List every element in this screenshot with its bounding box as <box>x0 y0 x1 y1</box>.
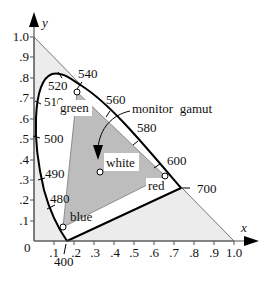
svg-text:.9: .9 <box>19 49 29 64</box>
x-tick-labels: .1 .2 .3 .4 .5 .6 .7 .8 .9 1.0 <box>49 245 242 260</box>
red-label: red <box>148 178 165 193</box>
blue-primary-point <box>60 224 66 230</box>
svg-text:.7: .7 <box>19 90 29 105</box>
svg-text:.6: .6 <box>19 111 29 126</box>
svg-text:.6: .6 <box>149 245 159 260</box>
svg-text:.3: .3 <box>90 245 100 260</box>
green-primary-point <box>74 89 80 95</box>
svg-text:.4: .4 <box>110 245 120 260</box>
svg-text:.9: .9 <box>209 245 219 260</box>
svg-text:400: 400 <box>54 254 74 269</box>
white-label: white <box>106 155 135 170</box>
svg-text:.2: .2 <box>19 192 29 207</box>
monitor-gamut-annotation: monitor gamut <box>132 101 213 116</box>
origin-label: 0 <box>24 240 31 255</box>
cie-chromaticity-diagram: y x .1 .2 .3 .4 .5 .6 .7 .8 .9 1.0 0 .1 … <box>0 0 267 284</box>
svg-text:1.0: 1.0 <box>226 245 242 260</box>
svg-text:.8: .8 <box>189 245 199 260</box>
svg-text:.3: .3 <box>19 172 29 187</box>
svg-text:480: 480 <box>50 191 70 206</box>
svg-text:490: 490 <box>45 166 65 181</box>
x-ticks <box>54 241 234 245</box>
svg-text:500: 500 <box>44 131 64 146</box>
y-tick-labels: .1 .2 .3 .4 .5 .6 .7 .8 .9 1.0 <box>13 29 30 228</box>
svg-text:600: 600 <box>167 153 187 168</box>
svg-text:.4: .4 <box>19 152 29 167</box>
svg-text:580: 580 <box>137 120 157 135</box>
green-label: green <box>60 100 89 115</box>
svg-text:.5: .5 <box>19 131 29 146</box>
y-axis-label: y <box>40 15 48 30</box>
x-axis-arrow-icon <box>244 236 259 246</box>
white-point <box>97 169 103 175</box>
svg-text:540: 540 <box>78 66 98 81</box>
blue-label: blue <box>70 209 93 224</box>
svg-text:.7: .7 <box>169 245 179 260</box>
svg-text:.1: .1 <box>19 213 29 228</box>
red-primary-point <box>162 173 168 179</box>
svg-text:.8: .8 <box>19 70 29 85</box>
svg-text:560: 560 <box>106 92 126 107</box>
svg-text:700: 700 <box>197 181 217 196</box>
x-axis-label: x <box>240 220 247 235</box>
svg-text:520: 520 <box>48 78 68 93</box>
svg-text:1.0: 1.0 <box>13 29 29 44</box>
svg-text:.5: .5 <box>129 245 139 260</box>
y-axis-arrow-icon <box>29 12 39 27</box>
